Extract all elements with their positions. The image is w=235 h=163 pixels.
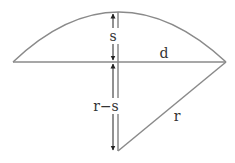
label-d: d	[160, 45, 169, 61]
label-r-minus-s: r−s	[93, 98, 119, 114]
slanted-radius-line	[118, 62, 226, 151]
circular-segment-diagram: s d r−s r	[0, 0, 235, 163]
label-r: r	[174, 108, 181, 124]
label-s: s	[109, 28, 116, 44]
circle-arc	[13, 12, 226, 62]
